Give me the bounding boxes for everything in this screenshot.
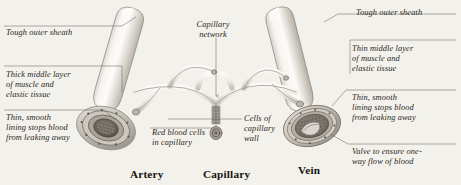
label-thin-smooth-lining-artery: Thin, smooth lining stops blood from lea… xyxy=(6,113,70,144)
label-valve: Valve to ensure one- way flow of blood xyxy=(352,147,422,167)
figure-canvas: Tough outer sheath Thick middle layer of… xyxy=(0,0,461,185)
label-cells-of-capillary-wall: Cells of capillary wall xyxy=(244,114,275,145)
caption-capillary: Capillary xyxy=(203,168,250,180)
label-tough-outer-sheath-artery: Tough outer sheath xyxy=(6,28,72,38)
label-red-blood-cells: Red blood cells in capillary xyxy=(152,128,205,148)
caption-vein: Vein xyxy=(298,164,320,176)
label-tough-outer-sheath-vein: Tough outer sheath xyxy=(356,8,422,18)
caption-artery: Artery xyxy=(130,168,164,180)
artery-cut-end xyxy=(71,100,140,157)
artery-cylinder xyxy=(90,4,146,114)
label-thin-middle-layer: Thin middle layer of muscle and elastic … xyxy=(352,44,413,75)
label-thick-middle-layer: Thick middle layer of muscle and elastic… xyxy=(6,70,71,101)
label-thin-smooth-lining-vein: Thin, smooth lining stops blood from lea… xyxy=(352,93,416,124)
vein-cut-end xyxy=(279,100,345,153)
label-capillary-network: Capillary network xyxy=(186,20,240,40)
red-blood-cells xyxy=(210,106,222,140)
